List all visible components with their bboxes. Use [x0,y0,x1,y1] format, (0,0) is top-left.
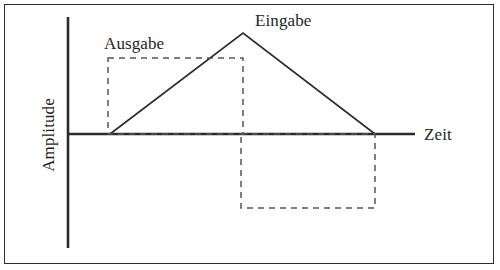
output-signal-label: Ausgabe [104,35,164,52]
diagram-figure: Eingabe Ausgabe Zeit Amplitude [0,0,500,270]
x-axis-label: Zeit [424,126,452,143]
output-pulse-negative [241,134,375,208]
output-pulse-positive [108,58,243,134]
y-axis-label: Amplitude [40,98,57,172]
input-signal-label: Eingabe [255,12,311,29]
